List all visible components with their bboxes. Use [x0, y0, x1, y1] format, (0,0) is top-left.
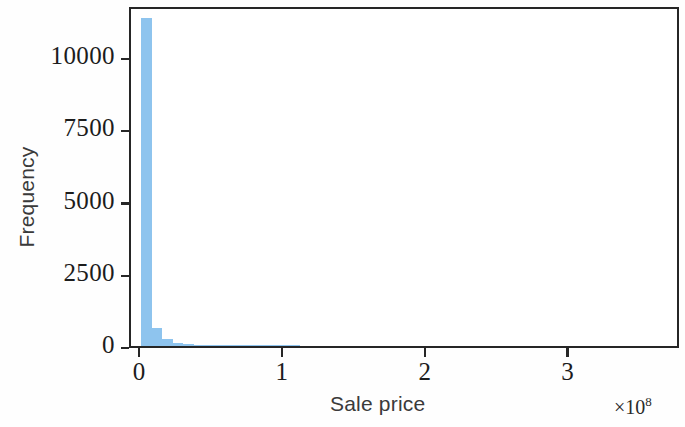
y-tick-mark	[121, 58, 129, 60]
histogram-bar	[226, 345, 237, 346]
y-tick-mark	[121, 347, 129, 349]
y-tick-label: 0	[102, 331, 115, 359]
histogram-bar	[152, 328, 163, 346]
x-tick-label: 2	[405, 358, 445, 386]
histogram-bar	[268, 345, 279, 346]
x-axis-offset-text: ×108	[614, 394, 652, 419]
offset-mantissa: ×10	[614, 396, 645, 418]
x-tick-label: 0	[119, 358, 159, 386]
x-tick-mark	[566, 348, 568, 357]
y-tick-mark	[121, 275, 129, 277]
histogram-bar	[247, 345, 258, 346]
histogram-bar	[173, 343, 184, 346]
y-tick-label: 10000	[51, 42, 116, 70]
histogram-figure: 025005000750010000 0123 Sale price ×108 …	[0, 0, 685, 427]
y-tick-label: 2500	[63, 259, 115, 287]
y-tick-mark	[121, 130, 129, 132]
histogram-bar	[236, 345, 247, 346]
histogram-bar	[215, 345, 226, 346]
x-axis-label: Sale price	[330, 392, 425, 416]
histogram-bar	[162, 339, 173, 346]
histogram-bar	[278, 345, 289, 346]
x-tick-mark	[138, 348, 140, 357]
y-axis-label: Frequency	[15, 132, 39, 262]
offset-exponent: 8	[645, 394, 652, 409]
y-tick-label: 7500	[63, 114, 115, 142]
x-tick-label: 3	[548, 358, 588, 386]
histogram-bar	[257, 345, 268, 346]
x-tick-mark	[424, 348, 426, 357]
plot-area	[129, 7, 679, 348]
histogram-bar	[183, 344, 194, 346]
y-tick-mark	[121, 202, 129, 204]
histogram-bar	[141, 18, 152, 346]
x-tick-label: 1	[262, 358, 302, 386]
histogram-bar	[194, 345, 205, 346]
histogram-bar	[204, 345, 215, 346]
y-tick-label: 5000	[63, 187, 115, 215]
x-tick-mark	[281, 348, 283, 357]
histogram-bar	[289, 345, 300, 346]
